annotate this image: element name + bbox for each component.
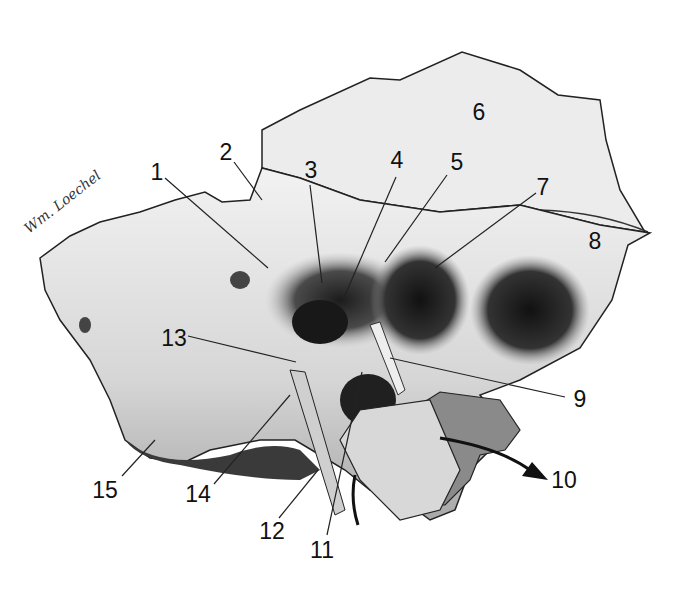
- label-7: 7: [537, 176, 550, 199]
- label-6: 6: [473, 101, 486, 124]
- label-5: 5: [451, 151, 464, 174]
- label-10: 10: [551, 469, 577, 492]
- label-15: 15: [92, 479, 118, 502]
- label-12: 12: [259, 520, 285, 543]
- label-9: 9: [574, 388, 587, 411]
- label-4: 4: [391, 149, 404, 172]
- label-8: 8: [589, 230, 602, 253]
- label-1: 1: [151, 161, 164, 184]
- label-13: 13: [161, 327, 187, 350]
- label-14: 14: [185, 483, 211, 506]
- label-2: 2: [220, 141, 233, 164]
- label-3: 3: [305, 159, 318, 182]
- anatomical-figure: Wm. Loechel 1 2 3 4 5 6 7 8 9 10 11 12 1…: [0, 0, 689, 591]
- label-11: 11: [310, 539, 334, 562]
